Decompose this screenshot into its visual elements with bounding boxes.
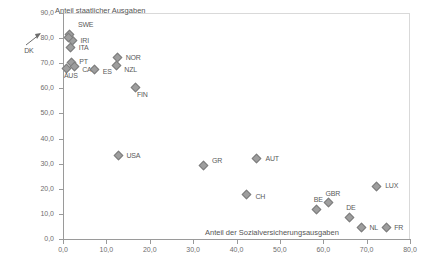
y-tick-label: 70,0 (2, 59, 54, 66)
x-tick (280, 240, 281, 244)
x-tick-label: 30,0 (173, 246, 213, 253)
y-tick (59, 13, 63, 14)
y-tick (59, 88, 63, 89)
x-tick-label: 10,0 (86, 246, 126, 253)
scatter-chart: Anteil staatlicher Ausgaben Anteil der S… (0, 0, 426, 268)
x-tick-label: 0,0 (43, 246, 83, 253)
data-point-label: NL (369, 224, 378, 231)
y-tick-label: 50,0 (2, 109, 54, 116)
x-tick-label: 40,0 (217, 246, 257, 253)
data-point-label: SWE (78, 21, 93, 28)
x-tick (323, 240, 324, 244)
y-tick (59, 164, 63, 165)
y-axis-line (63, 13, 64, 240)
x-tick-label: 70,0 (347, 246, 387, 253)
y-tick-label: 60,0 (2, 84, 54, 91)
data-point-label: FIN (137, 91, 148, 98)
x-tick (106, 240, 107, 244)
y-axis-title: Anteil staatlicher Ausgaben (55, 6, 145, 15)
x-tick-label: 80,0 (390, 246, 426, 253)
x-axis-title: Anteil der Sozialversicherungsausgaben (205, 228, 339, 237)
x-tick (63, 240, 64, 244)
y-tick (59, 63, 63, 64)
y-tick (59, 113, 63, 114)
y-tick-label: 0,0 (2, 235, 54, 242)
y-tick-label: 20,0 (2, 185, 54, 192)
y-tick (59, 38, 63, 39)
x-tick (367, 240, 368, 244)
data-point-label: LUX (385, 182, 398, 189)
x-tick (237, 240, 238, 244)
data-point-label: PT (79, 58, 88, 65)
y-tick-label: 80,0 (2, 34, 54, 41)
y-tick (59, 189, 63, 190)
plot-frame (63, 13, 410, 239)
y-tick-label: 30,0 (2, 160, 54, 167)
data-point-label: FR (394, 224, 403, 231)
x-tick-label: 60,0 (303, 246, 343, 253)
data-point-label: GR (212, 157, 222, 164)
x-tick (193, 240, 194, 244)
x-tick-label: 50,0 (260, 246, 300, 253)
data-point-label: GBR (325, 190, 340, 197)
data-point-label: AUS (64, 72, 78, 79)
data-point-label: ES (103, 68, 112, 75)
data-point-label: DK (24, 47, 33, 54)
y-tick-label: 10,0 (2, 210, 54, 217)
data-point-label: DE (346, 204, 355, 211)
x-tick (150, 240, 151, 244)
x-tick-label: 20,0 (130, 246, 170, 253)
data-point-label: IRI (81, 37, 89, 44)
y-tick (59, 214, 63, 215)
y-tick (59, 139, 63, 140)
data-point-label: NZL (124, 66, 137, 73)
data-point-label: ITA (79, 44, 89, 51)
data-point-label: USA (127, 152, 141, 159)
y-tick-label: 40,0 (2, 135, 54, 142)
x-tick (410, 240, 411, 244)
data-point-label: CH (255, 193, 265, 200)
y-tick-label: 90,0 (2, 9, 54, 16)
data-point-label: BE (314, 196, 323, 203)
data-point-label: NOR (126, 54, 141, 61)
data-point-label: AUT (265, 155, 278, 162)
